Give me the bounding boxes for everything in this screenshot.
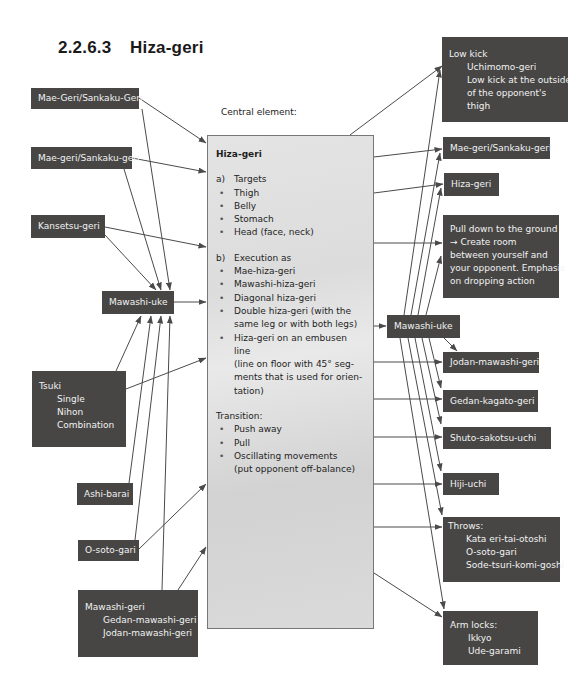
box-label: Ashi-barai [84,488,129,501]
bullet-icon: • [216,226,234,239]
bullet-icon: • [216,332,234,398]
box-label: Mae-Geri/Sankaku-Geri [38,92,143,105]
right-box-mae-geri-sankaku-geri: Mae-geri/Sankaku-geri [443,137,550,159]
transition-item: • Oscillating movements(put opponent off… [216,450,365,477]
target-item: •Belly [216,200,365,213]
right-box-gedan-kagato-geri: Gedan-kagato-geri [443,390,538,412]
box-item: Nihon [39,406,119,419]
box-line: → Create room [450,236,552,249]
item-text: Hiza-geri on an embusen line [234,332,365,359]
left-box-tsuki: Tsuki Single Nihon Combination [32,371,126,447]
box-item: Sode-tsuri-komi-goshi [448,559,553,572]
left-box-ashi-barai: Ashi-barai [77,483,133,505]
execution-item: •Mawashi-hiza-geri [216,278,365,291]
box-item: Combination [39,419,119,432]
box-label: Hiji-uchi [450,478,486,491]
left-box-mae-geri-sankaku-geri-caps: Mae-Geri/Sankaku-Geri [31,88,139,109]
box-label: Mae-geri/Sankaku-geri [450,142,551,155]
box-item: of the opponent's [449,87,561,100]
box-title: Throws: [448,520,553,533]
item-text: ments that is used for orien- [234,371,365,384]
bullet-icon: • [216,437,234,450]
right-box-throws: Throws: Kata eri-tai-otoshi O-soto-gari … [443,517,560,582]
item-text: tation) [234,385,365,398]
box-title: Arm locks: [450,619,531,632]
box-line: Pull down to the ground [450,223,552,236]
bullet-icon: • [216,450,234,477]
box-item: Ikkyo [450,632,531,645]
bullet-icon: • [216,200,234,213]
right-box-pull-down: Pull down to the ground → Create room be… [443,215,559,298]
box-title: Tsuki [39,380,119,393]
right-box-low-kick: Low kick Uchimomo-geri Low kick at the o… [442,37,568,122]
item-text: Belly [234,200,256,213]
left-box-kansetsu-geri: Kansetsu-geri [31,215,105,238]
right-box-jodan-mawashi-geri: Jodan-mawashi-geri [443,352,539,373]
box-label: Gedan-kagato-geri [450,395,534,408]
box-item: Low kick at the outside [449,74,561,87]
box-label: Kansetsu-geri [38,220,100,233]
right-box-hiji-uchi: Hiji-uchi [443,473,499,495]
item-text: (line on floor with 45° seg- [234,358,365,371]
item-text: Diagonal hiza-geri [234,292,316,305]
box-label: Shuto-sakotsu-uchi [450,432,536,445]
section-marker: b) [216,252,234,265]
item-text: Mae-hiza-geri [234,265,295,278]
central-element-box: Hiza-geri a) Targets •Thigh •Belly •Stom… [207,135,374,629]
box-line: your opponent. Emphasis [450,262,552,275]
target-item: •Stomach [216,213,365,226]
box-item: O-soto-gari [448,546,553,559]
box-label: Hiza-geri [451,178,491,191]
box-label: Jodan-mawashi-geri [450,356,539,369]
item-text: Head (face, neck) [234,226,314,239]
execution-item: •Diagonal hiza-geri [216,292,365,305]
item-text: Stomach [234,213,274,226]
box-label: Mawashi-uke [394,320,452,333]
right-box-hiza-geri: Hiza-geri [444,173,499,196]
box-label: Mawashi-uke [109,296,167,309]
target-item: •Thigh [216,187,365,200]
left-box-mawashi-uke: Mawashi-uke [102,291,174,314]
item-text: same leg or with both legs) [234,318,357,331]
box-item: thigh [449,100,561,113]
box-label: Mae-geri/Sankaku-geri [38,152,139,165]
right-box-arm-locks: Arm locks: Ikkyo Ude-garami [443,611,538,665]
bullet-icon: • [216,213,234,226]
section-a-heading: a) Targets [216,173,365,186]
box-title: Mawashi-geri [85,601,191,614]
item-text: Oscillating movements [234,450,355,463]
transition-item: •Push away [216,423,365,436]
right-box-mawashi-uke: Mawashi-uke [387,315,460,338]
box-item: Kata eri-tai-otoshi [448,533,553,546]
right-box-shuto-sakotsu-uchi: Shuto-sakotsu-uchi [443,427,551,449]
box-item: Uchimomo-geri [449,61,561,74]
bullet-icon: • [216,187,234,200]
bullet-icon: • [216,305,234,332]
section-heading-text: Execution as [234,252,291,265]
item-text: Mawashi-hiza-geri [234,278,315,291]
transition-heading: Transition: [216,410,365,423]
box-item: Ude-garami [450,645,531,658]
item-text: Double hiza-geri (with the [234,305,357,318]
box-label: O-soto-gari [85,544,136,557]
box-item: Jodan-mawashi-geri [85,627,191,640]
item-text: Pull [234,437,250,450]
left-box-mawashi-geri: Mawashi-geri Gedan-mawashi-geri Jodan-ma… [78,590,198,657]
execution-item: • Double hiza-geri (with thesame leg or … [216,305,365,332]
bullet-icon: • [216,292,234,305]
box-line: between yourself and [450,249,552,262]
box-line: on dropping action [450,275,552,288]
section-heading-text: Targets [234,173,267,186]
bullet-icon: • [216,278,234,291]
execution-item: •Mae-hiza-geri [216,265,365,278]
section-b-heading: b) Execution as [216,252,365,265]
box-title: Low kick [449,48,561,61]
execution-item: • Hiza-geri on an embusen line(line on f… [216,332,365,398]
section-marker: a) [216,173,234,186]
left-box-mae-geri-sankaku-geri: Mae-geri/Sankaku-geri [31,147,132,169]
bullet-icon: • [216,423,234,436]
box-item: Gedan-mawashi-geri [85,614,191,627]
box-item: Single [39,393,119,406]
item-text: (put opponent off-balance) [234,463,355,476]
central-title: Hiza-geri [216,148,365,161]
